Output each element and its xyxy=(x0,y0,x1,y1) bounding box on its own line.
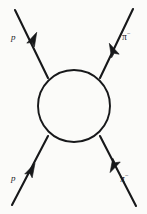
incoming-leg-top-left xyxy=(15,10,48,78)
particle-label-incoming-bottom-text: p xyxy=(11,173,16,183)
outgoing-leg-bottom-right xyxy=(100,136,136,206)
particle-label-incoming-top: p xyxy=(11,33,16,42)
incoming-leg-bottom-left-group xyxy=(12,136,48,205)
particle-label-outgoing-top: π− xyxy=(122,31,131,43)
outgoing-leg-bottom-right-group xyxy=(100,136,136,206)
incoming-leg-top-left-group xyxy=(15,10,48,78)
particle-label-outgoing-bottom: π− xyxy=(120,173,129,185)
particle-label-incoming-top-text: p xyxy=(11,32,16,42)
particle-label-outgoing-bottom-charge: − xyxy=(125,172,129,179)
interaction-blob xyxy=(38,70,110,142)
outgoing-leg-top-right-group xyxy=(100,9,133,78)
outgoing-leg-top-right xyxy=(100,9,133,78)
particle-label-outgoing-top-charge: − xyxy=(127,30,131,37)
feynman-diagram-figure: p p π− π− xyxy=(0,0,147,214)
particle-label-incoming-bottom: p xyxy=(11,174,16,183)
